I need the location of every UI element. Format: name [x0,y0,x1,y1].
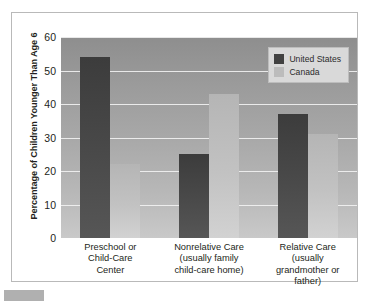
y-axis-tick-30: 30 [30,132,56,144]
legend-label: Canada [289,67,319,77]
x-axis-label-1: Preschool orChild-CareCenter [61,242,160,288]
y-axis-tick-0: 0 [30,232,56,244]
caption-block [4,290,44,301]
y-axis-tick-labels: 6050403020100 [30,37,56,238]
legend-label: United States [289,54,341,64]
bar-group-1 [64,37,156,238]
y-axis-tick-20: 20 [30,165,56,177]
plot-area: United StatesCanada [61,37,357,238]
bar-canada-1 [110,164,140,238]
bar-group-2 [163,37,255,238]
legend-item-canada: Canada [274,65,341,78]
bar-united-states-3 [278,114,308,238]
legend-swatch-icon-1 [274,54,284,64]
legend-item-united-states: United States [274,52,341,65]
chart-legend: United StatesCanada [268,47,349,83]
x-axis-category-labels: Preschool orChild-CareCenterNonrelative … [61,242,357,288]
y-axis-tick-10: 10 [30,199,56,211]
bar-canada-2 [209,94,239,238]
x-axis-label-2: Nonrelative Care(usually familychild-car… [160,242,259,288]
bar-united-states-1 [80,57,110,238]
y-axis-tick-40: 40 [30,98,56,110]
bar-canada-3 [308,134,338,238]
chart-figure: Percentage of Children Younger Than Age … [11,12,358,282]
y-axis-tick-50: 50 [30,65,56,77]
bar-united-states-2 [179,154,209,238]
y-axis-tick-60: 60 [30,31,56,43]
legend-swatch-icon-2 [274,67,284,77]
x-axis-label-3: Relative Care(usuallygrandmother orfathe… [258,242,357,288]
